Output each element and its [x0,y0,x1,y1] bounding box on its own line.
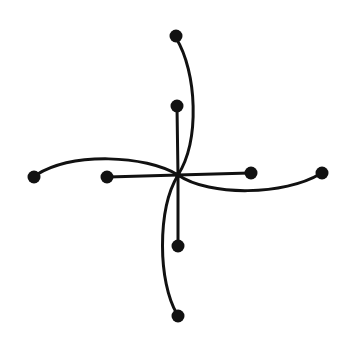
node-top-outer [170,30,183,43]
node-bottom-outer [172,310,185,323]
node-bottom-inner [172,240,185,253]
node-top-inner [171,100,184,113]
edge-top-straight [177,107,178,175]
node-right-outer [316,167,329,180]
figure-canvas [0,0,342,344]
edge-right-straight [178,173,250,175]
node-right-inner [245,167,258,180]
node-left-inner [101,171,114,184]
node-left-outer [28,171,41,184]
center-hub [175,172,181,178]
edge-left-straight [108,175,178,177]
hub-layer [175,172,181,178]
pinwheel-star-graph [0,0,342,344]
